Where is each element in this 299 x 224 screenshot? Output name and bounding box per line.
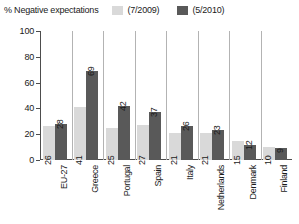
- bar-group: 2628EU-27: [40, 31, 72, 160]
- category-label: Spain: [154, 165, 163, 187]
- bar-series-2010: [55, 124, 67, 160]
- bar-value-label: 15: [233, 156, 242, 165]
- legend-label-2010: (5/2010): [192, 5, 224, 15]
- chart-legend: % Negative expectations (7/2009) (5/2010…: [0, 2, 299, 18]
- y-tick-label: 20: [24, 130, 34, 139]
- bar-value-label: 42: [119, 101, 128, 110]
- category-label: Finland: [280, 165, 289, 192]
- bar-value-label: 12: [245, 140, 254, 149]
- bar-value-label: 25: [107, 156, 116, 165]
- bar-series-2010: [149, 112, 161, 160]
- bar-group: 1512Denmark: [229, 31, 261, 160]
- bar-value-label: 28: [56, 119, 65, 128]
- bar-group: 2126Italy: [166, 31, 198, 160]
- legend-label-2009: (7/2009): [127, 5, 159, 15]
- bar-value-label: 21: [170, 156, 179, 165]
- y-tick-label: 80: [24, 53, 34, 62]
- legend-swatch-2010: [177, 6, 188, 15]
- bar-value-label: 10: [264, 156, 273, 165]
- bar-group: 2542Portugal: [103, 31, 135, 160]
- bar-series-2010: [86, 71, 98, 160]
- bar-series-2009: [74, 107, 86, 160]
- bar-value-label: 9: [276, 149, 285, 154]
- plot-area: 020406080100 2628EU-274169Greece2542Port…: [40, 31, 292, 160]
- bar-value-label: 27: [138, 156, 147, 165]
- bar-group: 2737Spain: [135, 31, 167, 160]
- chart-title: % Negative expectations: [4, 5, 98, 15]
- y-tick-label: 60: [24, 79, 34, 88]
- category-label: Netherlands: [217, 165, 226, 210]
- y-tick-label: 40: [24, 104, 34, 113]
- bar-group: 4169Greece: [72, 31, 104, 160]
- y-tick-mark: [36, 160, 40, 161]
- bar-group: 2123Netherlands: [198, 31, 230, 160]
- bar-value-label: 26: [44, 156, 53, 165]
- legend-entry-2009: (7/2009): [112, 5, 159, 15]
- bar-value-label: 23: [213, 126, 222, 135]
- bar-value-label: 26: [182, 122, 191, 131]
- legend-swatch-2009: [112, 6, 123, 15]
- bar-series-2010: [118, 106, 130, 160]
- bar-value-label: 41: [75, 156, 84, 165]
- y-tick-label: 0: [29, 156, 34, 165]
- category-label: EU-27: [60, 165, 69, 189]
- bar-value-label: 69: [87, 67, 96, 76]
- legend-entry-2010: (5/2010): [177, 5, 224, 15]
- chart-page: % Negative expectations (7/2009) (5/2010…: [0, 0, 299, 224]
- bar-value-label: 21: [201, 156, 210, 165]
- bar-group: 109Finland: [261, 31, 293, 160]
- category-label: Greece: [91, 165, 100, 193]
- bar-value-label: 37: [150, 108, 159, 117]
- category-label: Portugal: [123, 165, 132, 196]
- bar-series-2010: [181, 126, 193, 160]
- category-label: Denmark: [249, 165, 258, 199]
- category-label: Italy: [186, 165, 195, 180]
- y-tick-label: 100: [20, 27, 34, 36]
